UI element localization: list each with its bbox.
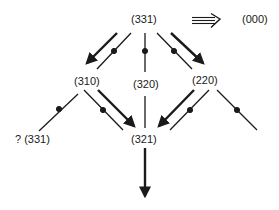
transition-diagram bbox=[0, 0, 279, 210]
node-220: (220) bbox=[192, 74, 218, 86]
node-321: (321) bbox=[131, 133, 157, 145]
arrow-331-to-220 bbox=[171, 33, 203, 63]
node-310: (310) bbox=[74, 75, 100, 87]
implies-arrow-icon bbox=[192, 14, 220, 28]
node-dot bbox=[142, 48, 147, 53]
node-000: (000) bbox=[242, 13, 268, 25]
node-320: (320) bbox=[133, 78, 159, 90]
node-dot bbox=[111, 48, 116, 53]
node-331-top: (331) bbox=[131, 13, 157, 25]
node-dot bbox=[171, 48, 176, 53]
node-331-question: ? (331) bbox=[15, 133, 50, 145]
edge-310-to-331-question bbox=[39, 94, 78, 131]
node-dot bbox=[100, 107, 105, 112]
node-dot bbox=[187, 107, 192, 112]
node-dot bbox=[234, 107, 239, 112]
node-dot bbox=[56, 106, 61, 111]
arrow-331-to-310 bbox=[87, 33, 117, 63]
